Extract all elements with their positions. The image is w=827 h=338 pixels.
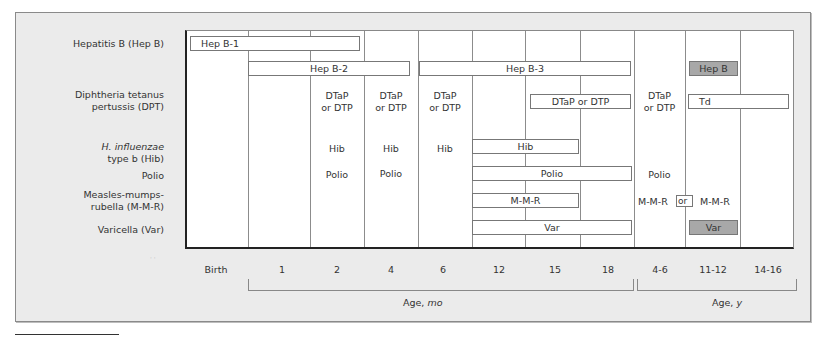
footnote-rule [15,334,119,335]
tick-4-6y: 4-6 [640,264,680,275]
grid-line [740,31,741,247]
row-label-hepb: Hepatitis B (Hep B) [73,38,164,50]
cell-dtap-2mo: DTaPor DTP [310,90,364,114]
cell-hib-6mo: Hib [418,143,472,155]
cell-hib-2mo: Hib [310,143,364,155]
grid-line [634,31,635,247]
row-label-hib: H. influenzae type b (Hib) [101,141,164,165]
years-axis-title: Age, y [712,297,742,308]
bar-mmr-12-15mo: M-M-R [472,193,579,208]
bar-dtap-15-18mo: DTaP or DTP [530,94,631,109]
bar-hepb-catchup: Hep B [689,61,738,76]
cell-dtap-6mo: DTaPor DTP [418,90,472,114]
cell-hib-4mo: Hib [364,143,418,155]
cell-dtap-4-6y: DTaPor DTP [634,90,685,114]
row-label-dpt-line2: pertussis (DPT) [75,101,164,113]
months-bracket [248,279,634,291]
bar-var-catchup: Var [689,220,738,235]
cell-mmr-4-6y: M-M-R [638,196,674,208]
grid-line [685,31,686,247]
row-label-mmr-line2: rubella (M-M-R) [83,201,164,213]
tick-6mo: 6 [423,264,463,275]
tick-4mo: 4 [371,264,411,275]
tick-14-16y: 14-16 [748,264,788,275]
row-label-dpt-line1: Diphtheria tetanus [75,89,164,101]
row-label-mmr: Measles-mumps- rubella (M-M-R) [83,189,164,213]
cell-dtap-4mo: DTaPor DTP [364,90,418,114]
bar-polio-12-18mo: Polio [472,166,632,181]
cell-polio-4mo: Polio [364,168,418,180]
years-bracket [637,279,797,291]
row-label-hib-line1: H. influenzae [101,141,164,152]
tick-12mo: 12 [479,264,519,275]
bar-var-12-18mo: Var [472,220,632,235]
scan-specks: · · [150,254,156,261]
row-label-dpt: Diphtheria tetanus pertussis (DPT) [75,89,164,113]
tick-1mo: 1 [262,264,302,275]
bar-hepb3: Hep B-3 [419,61,631,76]
cell-polio-2mo: Polio [310,169,364,181]
bar-hepb2: Hep B-2 [248,61,410,76]
tick-15mo: 15 [535,264,575,275]
cell-mmr-11-12y: M-M-R [700,196,740,208]
bar-hib-12-15mo: Hib [472,139,579,154]
months-axis-title: Age, mo [403,297,443,308]
bar-td: Td [688,94,789,109]
row-label-hib-line2: type b (Hib) [101,153,164,165]
bar-hepb1: Hep B-1 [190,36,360,51]
row-label-mmr-line1: Measles-mumps- [83,189,164,201]
tick-2mo: 2 [317,264,357,275]
cell-polio-4-6y: Polio [634,169,685,181]
tick-11-12y: 11-12 [693,264,733,275]
tick-birth: Birth [196,264,236,275]
row-label-polio: Polio [142,170,164,182]
row-label-var: Varicella (Var) [98,224,164,236]
tick-18mo: 18 [588,264,628,275]
or-box: or [676,195,693,207]
